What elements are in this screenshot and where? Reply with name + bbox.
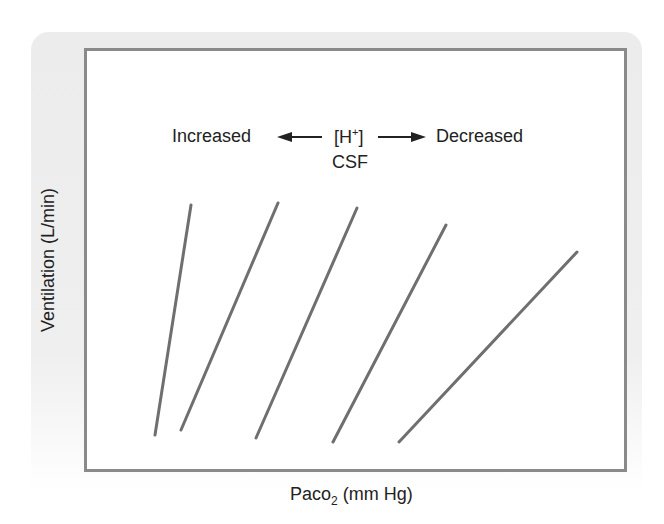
annotation-csf: CSF (332, 152, 368, 173)
line-5 (399, 252, 577, 442)
response-lines (0, 0, 664, 524)
y-axis-label: Ventilation (L/min) (38, 188, 59, 332)
x-axis-label: Paco2 (mm Hg) (290, 484, 413, 508)
h-label: [H (334, 127, 352, 147)
line-1 (155, 205, 191, 435)
x-label-units: (mm Hg) (338, 484, 413, 504)
annotation-increased: Increased (172, 126, 251, 147)
x-label-sub: 2 (331, 494, 338, 508)
line-2 (181, 203, 278, 430)
x-label-main: Paco (290, 484, 331, 504)
annotation-h-plus: [H+] (334, 126, 363, 148)
h-bracket: ] (358, 127, 363, 147)
annotation-decreased: Decreased (436, 126, 523, 147)
line-3 (256, 208, 357, 438)
